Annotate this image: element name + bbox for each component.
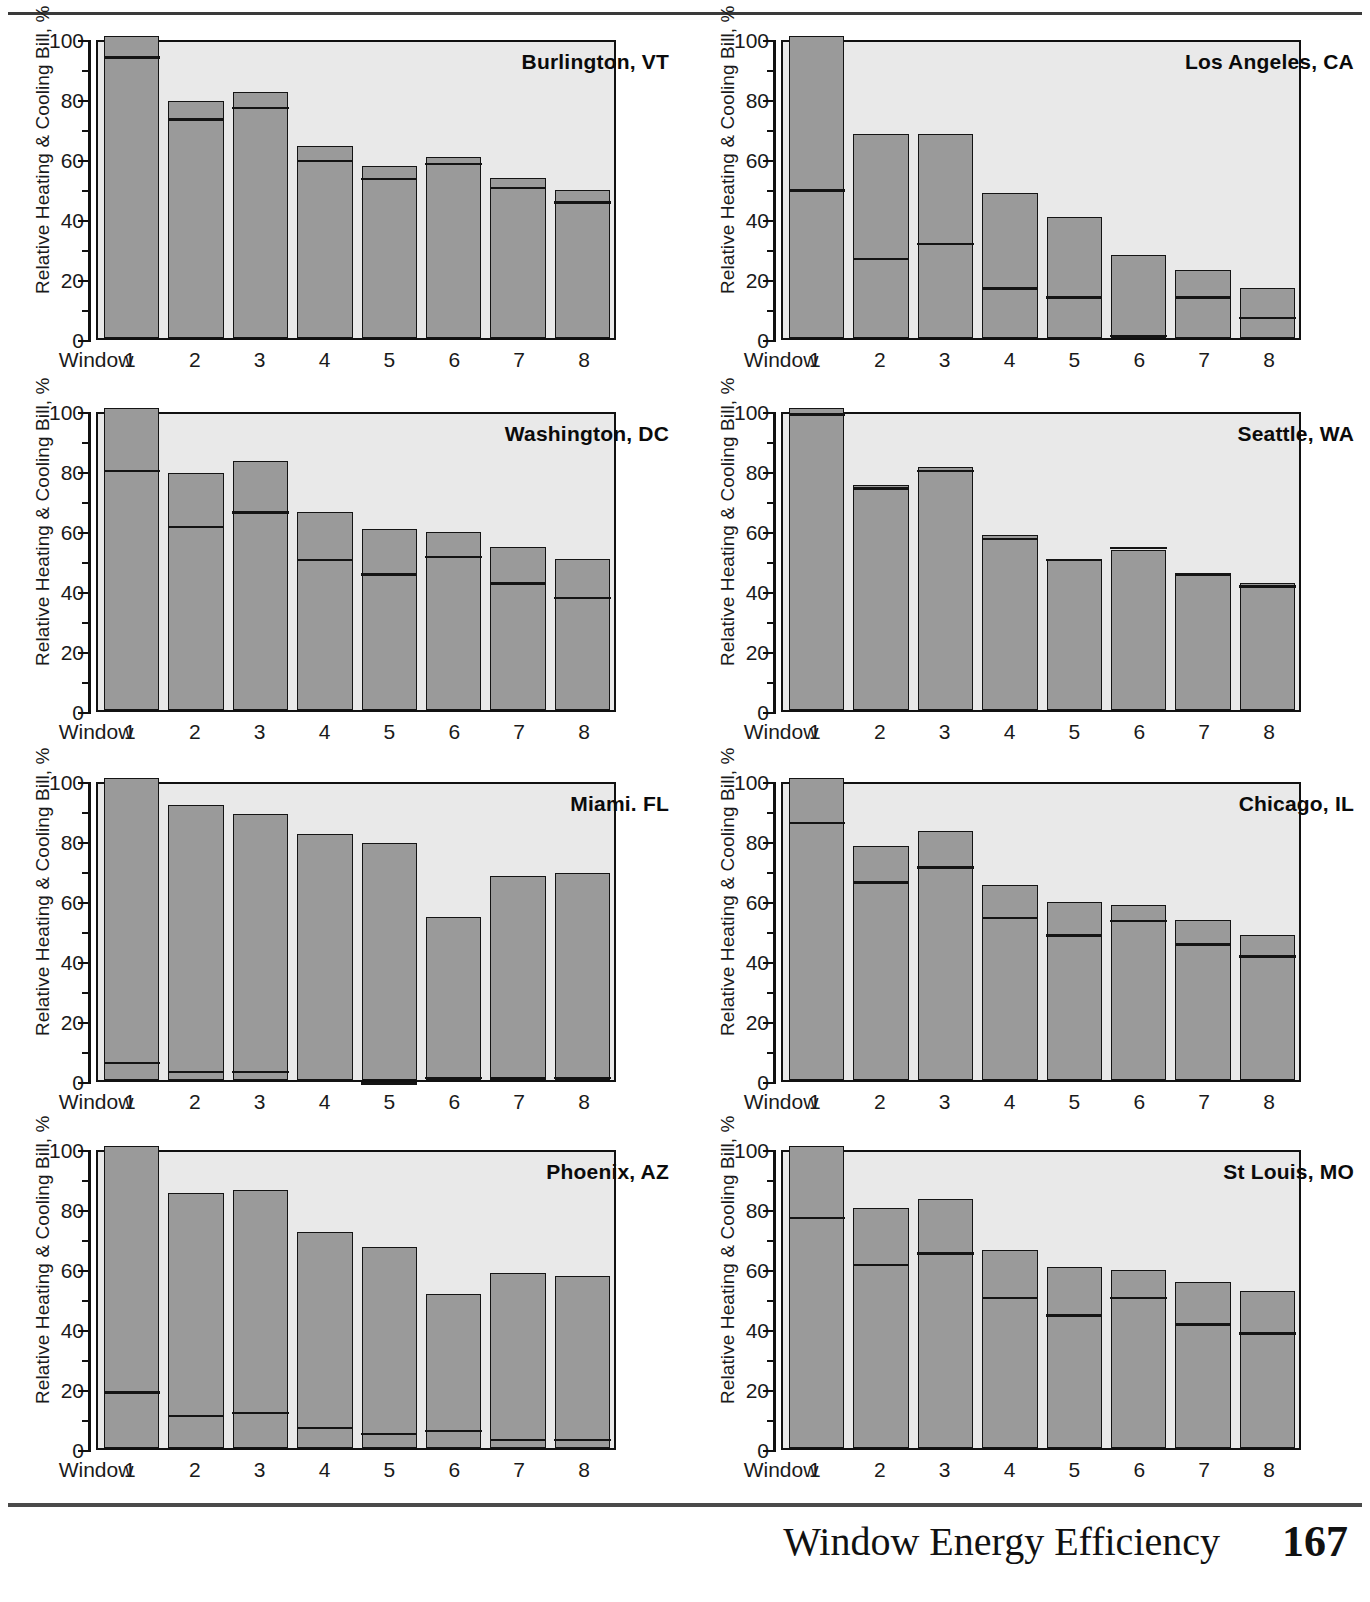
stacked-bar[interactable] (1047, 1267, 1102, 1448)
stacked-bar[interactable] (1111, 550, 1166, 710)
stacked-bar[interactable] (853, 846, 908, 1080)
stacked-bar[interactable] (426, 157, 481, 338)
y-axis-tick-labels: 020406080100 (36, 40, 84, 340)
x-axis-tick-label: 1 (124, 1458, 136, 1482)
stacked-bar[interactable] (1175, 920, 1230, 1080)
stacked-bar[interactable] (297, 1232, 352, 1448)
heating-cooling-divider (1175, 943, 1231, 946)
stacked-bar[interactable] (918, 467, 973, 710)
stacked-bar[interactable] (789, 36, 844, 338)
stacked-bar[interactable] (104, 1146, 159, 1448)
y-axis-minor-tick (82, 190, 91, 192)
bottom-divider-rule (8, 1503, 1362, 1507)
stacked-bar[interactable] (1240, 1291, 1295, 1448)
stacked-bar[interactable] (490, 1273, 545, 1448)
bar-slot (1111, 1152, 1166, 1448)
stacked-bar[interactable] (1175, 270, 1230, 338)
stacked-bar[interactable] (918, 831, 973, 1080)
bar-slot (168, 784, 223, 1080)
stacked-bar[interactable] (1111, 255, 1166, 338)
y-axis-major-tick (78, 782, 91, 784)
bar-slot (1175, 784, 1230, 1080)
stacked-bar[interactable] (555, 1276, 610, 1448)
footer-title: Window Energy Efficiency (783, 1518, 1220, 1565)
stacked-bar[interactable] (233, 461, 288, 710)
stacked-bar[interactable] (982, 1250, 1037, 1448)
stacked-bar[interactable] (362, 529, 417, 710)
stacked-bar[interactable] (297, 146, 352, 338)
heating-cooling-divider (1239, 585, 1295, 588)
y-axis-minor-tick (82, 310, 91, 312)
heating-cooling-divider (789, 1217, 845, 1220)
stacked-bar[interactable] (1240, 583, 1295, 710)
stacked-bar[interactable] (982, 885, 1037, 1080)
bar-slot (789, 414, 844, 710)
y-axis-minor-tick (82, 130, 91, 132)
y-axis-major-tick (763, 412, 776, 414)
x-axis-tick-label: 2 (874, 720, 886, 744)
stacked-bar[interactable] (1240, 288, 1295, 338)
stacked-bar[interactable] (1175, 574, 1230, 710)
x-axis-tick-label: 3 (939, 1458, 951, 1482)
stacked-bar[interactable] (168, 473, 223, 710)
x-axis-tick-label: 6 (448, 348, 460, 372)
heating-cooling-divider (789, 822, 845, 825)
x-axis-tick-label: 2 (189, 720, 201, 744)
heating-cooling-divider (490, 1077, 546, 1080)
stacked-bar[interactable] (362, 843, 417, 1080)
stacked-bar[interactable] (555, 559, 610, 710)
stacked-bar[interactable] (1111, 905, 1166, 1080)
stacked-bar[interactable] (426, 917, 481, 1080)
y-axis-major-tick (763, 1330, 776, 1332)
stacked-bar[interactable] (555, 873, 610, 1080)
bar-slot (426, 42, 481, 338)
stacked-bar[interactable] (853, 134, 908, 338)
stacked-bar[interactable] (362, 1247, 417, 1448)
stacked-bar[interactable] (555, 190, 610, 338)
y-axis-major-tick (78, 472, 91, 474)
bar-slot (853, 1152, 908, 1448)
stacked-bar[interactable] (853, 485, 908, 710)
stacked-bar[interactable] (1047, 217, 1102, 338)
stacked-bar[interactable] (233, 814, 288, 1080)
stacked-bar[interactable] (362, 166, 417, 338)
stacked-bar[interactable] (233, 92, 288, 338)
stacked-bar[interactable] (168, 1193, 223, 1448)
x-axis-tick-label: 1 (809, 1458, 821, 1482)
stacked-bar[interactable] (789, 1146, 844, 1448)
stacked-bar[interactable] (168, 101, 223, 338)
stacked-bar[interactable] (789, 778, 844, 1080)
bar-slot (1175, 1152, 1230, 1448)
stacked-bar[interactable] (789, 408, 844, 710)
stacked-bar[interactable] (104, 778, 159, 1080)
stacked-bar[interactable] (982, 193, 1037, 338)
stacked-bar[interactable] (297, 834, 352, 1080)
stacked-bar[interactable] (918, 1199, 973, 1448)
y-axis-tick-labels: 020406080100 (721, 1150, 769, 1450)
stacked-bar[interactable] (490, 547, 545, 710)
stacked-bar[interactable] (104, 36, 159, 338)
stacked-bar[interactable] (1240, 935, 1295, 1080)
heating-cooling-divider (297, 1427, 353, 1430)
stacked-bar[interactable] (297, 512, 352, 710)
bar-slot (490, 42, 545, 338)
stacked-bar[interactable] (426, 532, 481, 710)
stacked-bar[interactable] (853, 1208, 908, 1448)
stacked-bar[interactable] (1111, 1270, 1166, 1448)
stacked-bar[interactable] (426, 1294, 481, 1448)
stacked-bar[interactable] (982, 535, 1037, 710)
y-axis-major-tick (763, 782, 776, 784)
y-axis-minor-tick (767, 932, 776, 934)
stacked-bar[interactable] (104, 408, 159, 710)
stacked-bar[interactable] (168, 805, 223, 1080)
stacked-bar[interactable] (1047, 902, 1102, 1080)
stacked-bar[interactable] (1175, 1282, 1230, 1448)
heating-cooling-divider (1239, 317, 1295, 320)
stacked-bar[interactable] (918, 134, 973, 338)
stacked-bar[interactable] (1047, 559, 1102, 710)
x-axis-tick-label: 6 (448, 720, 460, 744)
stacked-bar[interactable] (490, 178, 545, 338)
heating-cooling-divider (917, 866, 973, 869)
stacked-bar[interactable] (490, 876, 545, 1080)
stacked-bar[interactable] (233, 1190, 288, 1448)
